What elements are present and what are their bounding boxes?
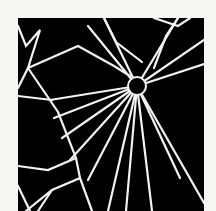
- web-hub: [128, 77, 146, 95]
- spider-web-photo: [18, 18, 204, 211]
- spider-web-graphic: [18, 18, 204, 211]
